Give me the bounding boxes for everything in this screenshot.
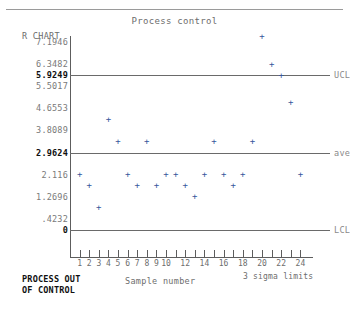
x-tick: [224, 250, 225, 257]
x-tick-label: 9: [154, 259, 159, 268]
x-tick-label: 18: [238, 259, 248, 268]
sigma-limits-note: 3 sigma limits: [243, 272, 313, 281]
data-point: [287, 99, 294, 106]
y-tick-label: 1.2696: [36, 192, 68, 202]
data-point: [105, 116, 112, 123]
data-point: [220, 171, 227, 178]
y-tick-label: 5.5017: [36, 81, 68, 91]
data-point: [191, 193, 198, 200]
x-tick: [243, 250, 244, 257]
data-point: [124, 171, 131, 178]
limit-label-ave: ave: [334, 148, 350, 158]
x-tick-label: 16: [219, 259, 229, 268]
data-point: [230, 182, 237, 189]
x-tick: [281, 250, 282, 257]
process-status-text: PROCESS OUT OF CONTROL: [22, 274, 81, 296]
x-tick-label: 8: [144, 259, 149, 268]
limit-line-ucl: [70, 75, 330, 76]
data-point: [211, 138, 218, 145]
data-point: [278, 72, 285, 79]
x-tick-label: 2: [87, 259, 92, 268]
y-axis-line: [70, 36, 71, 258]
x-tick-label: 24: [296, 259, 306, 268]
x-tick: [233, 250, 234, 257]
x-tick-label: 1: [77, 259, 82, 268]
x-tick: [156, 250, 157, 257]
data-point: [201, 171, 208, 178]
y-tick-label: 0: [63, 225, 68, 235]
x-tick: [166, 250, 167, 257]
y-axis-tick-labels: 7.19466.34825.92495.50174.65533.80892.96…: [0, 0, 68, 313]
y-tick-label: 3.8089: [36, 125, 68, 135]
limit-line-lcl: [70, 230, 330, 231]
x-axis-line: [70, 257, 313, 258]
data-point: [182, 182, 189, 189]
status-line-1: PROCESS OUT: [22, 274, 81, 285]
data-point: [115, 138, 122, 145]
x-tick: [176, 250, 177, 257]
x-tick: [137, 250, 138, 257]
data-point: [239, 171, 246, 178]
x-tick-label: 3: [96, 259, 101, 268]
x-tick: [214, 250, 215, 257]
data-point: [86, 182, 93, 189]
y-tick-label: 2.9624: [36, 148, 68, 158]
x-tick-label: 20: [257, 259, 267, 268]
data-point: [268, 61, 275, 68]
x-tick-label: 5: [116, 259, 121, 268]
x-tick-label: 22: [276, 259, 286, 268]
x-axis-title: Sample number: [125, 276, 195, 286]
limit-label-lcl: LCL: [334, 225, 350, 235]
x-tick: [291, 250, 292, 257]
x-tick-label: 14: [200, 259, 210, 268]
status-line-2: OF CONTROL: [22, 285, 81, 296]
x-tick-label: 10: [161, 259, 171, 268]
x-tick: [300, 250, 301, 257]
x-tick: [128, 250, 129, 257]
x-tick: [99, 250, 100, 257]
y-tick-label: 6.3482: [36, 59, 68, 69]
data-point: [249, 138, 256, 145]
data-point: [95, 204, 102, 211]
x-tick: [252, 250, 253, 257]
x-tick: [204, 250, 205, 257]
x-tick-label: 4: [106, 259, 111, 268]
data-point: [153, 182, 160, 189]
x-tick: [118, 250, 119, 257]
x-tick: [108, 250, 109, 257]
y-tick-label: 4.6553: [36, 103, 68, 113]
data-point: [297, 171, 304, 178]
x-tick-label: 12: [180, 259, 190, 268]
data-point: [134, 182, 141, 189]
data-point: [259, 33, 266, 40]
x-tick-label: 6: [125, 259, 130, 268]
data-point: [163, 171, 170, 178]
data-point: [76, 171, 83, 178]
x-tick: [195, 250, 196, 257]
x-tick: [262, 250, 263, 257]
x-tick: [89, 250, 90, 257]
x-tick: [185, 250, 186, 257]
data-point: [143, 138, 150, 145]
x-tick: [80, 250, 81, 257]
x-tick: [272, 250, 273, 257]
y-tick-label: 2.116: [41, 170, 68, 180]
data-point: [172, 171, 179, 178]
y-tick-label: 5.9249: [36, 70, 68, 80]
x-tick: [147, 250, 148, 257]
limit-label-ucl: UCL: [334, 70, 350, 80]
limit-line-ave: [70, 153, 330, 154]
y-tick-label: 7.1946: [36, 37, 68, 47]
y-tick-label: .4232: [41, 214, 68, 224]
x-tick-label: 7: [135, 259, 140, 268]
